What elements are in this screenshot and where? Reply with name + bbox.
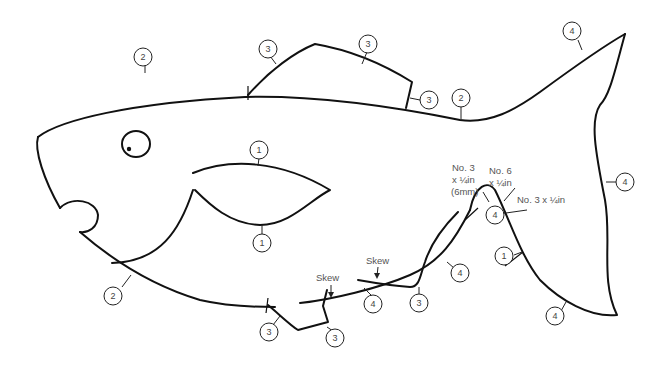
screw-note-b: No. 6 x ¼in — [489, 165, 515, 201]
svg-text:2: 2 — [110, 291, 115, 301]
callout-dorsal-left: 3 — [259, 40, 277, 64]
fish-head-front — [37, 137, 60, 208]
svg-text:3: 3 — [365, 39, 370, 49]
callout-dorsal-right: 3 — [410, 91, 438, 109]
callout-anal-belly: 4 — [364, 288, 382, 313]
callout-anal-fin: 3 — [410, 287, 428, 312]
svg-text:4: 4 — [370, 299, 375, 309]
svg-text:3: 3 — [266, 327, 271, 337]
callout-tail-peak: 4 — [486, 206, 505, 224]
callout-tail-bottom: 4 — [546, 302, 566, 325]
eye-pupil — [127, 147, 131, 151]
callout-pectoral-top: 1 — [250, 141, 268, 166]
svg-text:3: 3 — [332, 333, 337, 343]
svg-text:4: 4 — [569, 26, 574, 36]
callout-back: 2 — [452, 89, 470, 120]
fish-mouth — [60, 201, 98, 232]
callout-belly: 2 — [104, 275, 131, 305]
svg-text:3: 3 — [416, 298, 421, 308]
svg-text:4: 4 — [552, 311, 557, 321]
svg-text:1: 1 — [259, 238, 264, 248]
gill-line — [112, 190, 193, 263]
callout-pelvic-right: 3 — [326, 327, 344, 347]
svg-text:x ¼in: x ¼in — [452, 174, 475, 185]
svg-text:3: 3 — [265, 44, 270, 54]
svg-text:4: 4 — [457, 268, 462, 278]
svg-text:1: 1 — [501, 251, 506, 261]
screw-note-c: No. 3 x ¼in — [506, 194, 565, 213]
svg-text:1: 1 — [256, 145, 261, 155]
callout-tail-top: 4 — [563, 22, 582, 50]
svg-text:x ¼in: x ¼in — [489, 177, 512, 188]
svg-text:No. 3 x ¼in: No. 3 x ¼in — [517, 194, 565, 205]
svg-text:No. 6: No. 6 — [489, 165, 512, 176]
skew-note-right: Skew — [366, 255, 389, 279]
callout-pelvic-left: 3 — [260, 316, 280, 341]
svg-text:Skew: Skew — [366, 255, 389, 266]
svg-text:2: 2 — [140, 52, 145, 62]
svg-text:4: 4 — [622, 177, 627, 187]
callout-pectoral-bottom: 1 — [253, 225, 271, 252]
pectoral-fin — [193, 164, 330, 225]
skew-note-left: Skew — [316, 272, 339, 298]
callout-tail-root-lower: 4 — [447, 262, 469, 282]
callout-tail-right: 4 — [606, 173, 634, 191]
fish-pattern-diagram: 2 3 3 3 2 4 4 1 1 2 3 3 — [0, 0, 671, 372]
svg-text:Skew: Skew — [316, 272, 339, 283]
svg-text:(6mm): (6mm) — [451, 186, 478, 197]
callout-top-head: 2 — [134, 48, 152, 73]
svg-text:No. 3: No. 3 — [452, 162, 475, 173]
screw-note-a: No. 3 x ¼in (6mm) — [451, 162, 489, 202]
svg-text:3: 3 — [426, 95, 431, 105]
svg-text:2: 2 — [458, 93, 463, 103]
pelvic-fin — [268, 290, 328, 330]
fish-back-outline — [38, 34, 625, 137]
svg-text:4: 4 — [492, 210, 497, 220]
eye — [122, 131, 150, 157]
